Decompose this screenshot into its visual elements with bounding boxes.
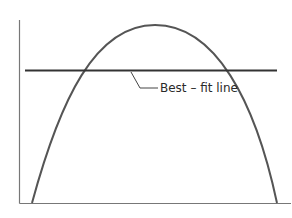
best-fit-label: Best – fit line — [160, 81, 238, 95]
annotation-leader-line — [131, 72, 158, 88]
diagram-canvas — [0, 0, 292, 218]
parabola-curve — [32, 25, 277, 203]
best-fit-diagram: Best – fit line — [0, 0, 292, 218]
